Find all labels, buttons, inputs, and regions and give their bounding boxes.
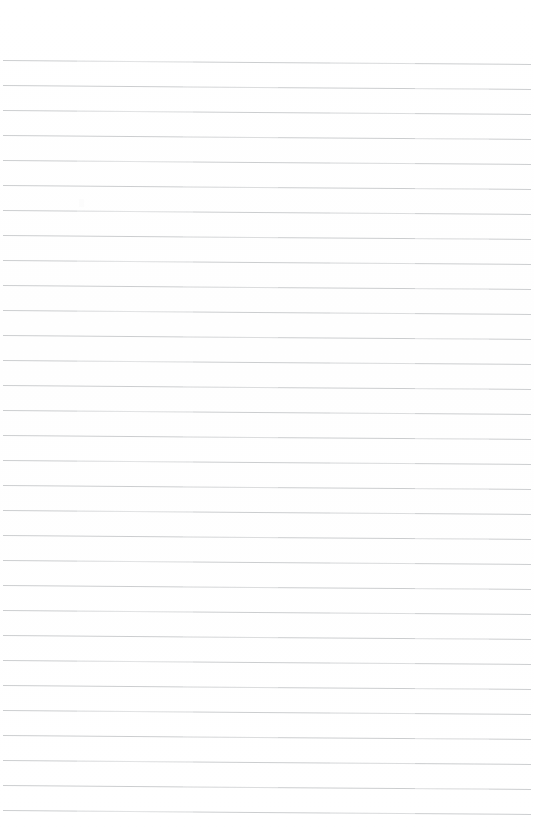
writing-area[interactable] <box>3 60 531 810</box>
notebook-page <box>0 0 534 834</box>
ruled-line <box>3 810 531 815</box>
